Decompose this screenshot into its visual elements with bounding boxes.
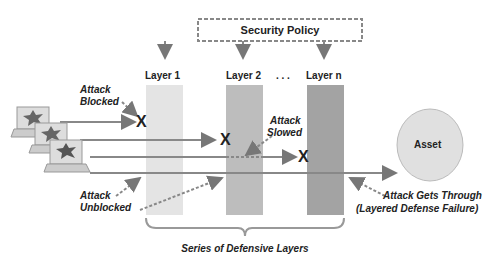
- layer-2-label: Layer 2: [226, 70, 261, 81]
- blocked-label-2: Blocked: [80, 96, 119, 107]
- laptop-icons: [11, 107, 90, 172]
- asset-label: Asset: [414, 139, 441, 150]
- unblocked-label-2: Unblocked: [80, 202, 131, 213]
- policy-label: Security Policy: [198, 24, 362, 36]
- brace: [146, 218, 344, 236]
- diagram-canvas: [0, 0, 496, 265]
- blocked-label-1: Attack: [80, 84, 111, 95]
- layer-n-label: Layer n: [306, 70, 342, 81]
- layer-2-bar: [226, 85, 263, 215]
- block-mark-3: X: [298, 148, 309, 166]
- block-mark-1: X: [136, 113, 147, 131]
- unblocked-label-1: Attack: [80, 190, 111, 201]
- slowed-label-2: Slowed: [267, 127, 302, 138]
- block-mark-2: X: [220, 131, 231, 149]
- through-label-1: Attack Gets Through: [383, 190, 482, 201]
- through-label-2: (Layered Defense Failure): [356, 203, 478, 214]
- layer-1-label: Layer 1: [145, 70, 180, 81]
- layer-n-bar: [307, 85, 344, 215]
- brace-label: Series of Defensive Layers: [146, 243, 344, 254]
- ellipsis: . . .: [276, 70, 290, 81]
- slowed-label-1: Attack: [270, 115, 301, 126]
